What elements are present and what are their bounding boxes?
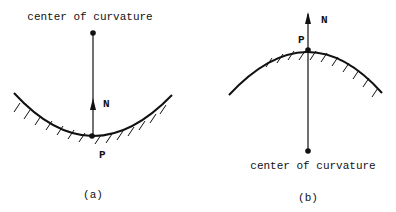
normal-arrowhead-b [305, 12, 311, 24]
center-point-b [305, 148, 311, 154]
point-label-a: P [99, 149, 106, 161]
point-p-a [89, 133, 95, 139]
normal-label-a: N [103, 98, 110, 110]
surface-curve-b [229, 52, 382, 95]
caption-a: (a) [83, 189, 103, 201]
center-of-curvature-label-a: center of curvature [27, 11, 152, 23]
point-p-b [305, 47, 311, 53]
caption-b: (b) [298, 192, 318, 204]
point-label-b: P [298, 34, 305, 46]
figure-a: center of curvature N P (a) [14, 11, 172, 201]
center-of-curvature-label-b: center of curvature [250, 160, 375, 172]
figure-b: N P center of curvature (b) [229, 12, 382, 204]
normal-arrowhead-a [90, 98, 96, 110]
curvature-diagram: center of curvature N P (a) N [0, 0, 396, 212]
normal-label-b: N [321, 14, 328, 26]
